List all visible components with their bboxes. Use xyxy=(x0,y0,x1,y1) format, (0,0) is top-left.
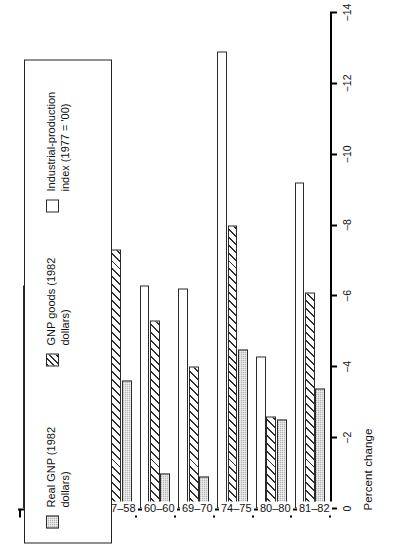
value-tick-label: −6 xyxy=(341,275,353,315)
value-tick-label: −14 xyxy=(341,0,353,32)
bar-ip xyxy=(217,51,227,508)
value-axis-title: Percent change xyxy=(362,428,374,510)
bar-group xyxy=(214,12,253,508)
category-label: 60–60 xyxy=(142,501,177,515)
bar-gnp xyxy=(238,349,248,508)
bar-goods xyxy=(305,292,315,508)
bar-group xyxy=(175,12,214,508)
bar-group xyxy=(253,12,292,508)
bar-goods xyxy=(228,225,238,508)
bar-ip xyxy=(295,182,305,508)
value-tick xyxy=(330,224,337,226)
legend-swatch-goods xyxy=(46,353,59,366)
value-tick xyxy=(330,82,337,84)
bar-group xyxy=(291,12,330,508)
value-tick-label: −10 xyxy=(341,134,353,174)
category-label: 80–80 xyxy=(258,501,293,515)
category-label: 69–70 xyxy=(180,501,215,515)
value-axis-line xyxy=(330,12,332,510)
value-tick-label: −8 xyxy=(341,205,353,245)
legend-swatch-gnp xyxy=(46,515,59,528)
legend-label-ip: Industrial-production index (1977 = '00) xyxy=(45,91,73,191)
bar-goods xyxy=(111,249,121,508)
bar-group xyxy=(136,12,175,508)
chart-figure: 0−2−4−6−8−10−12−14 49–4953–5457–5860–606… xyxy=(0,0,394,559)
value-tick-label: −12 xyxy=(341,63,353,103)
category-tick xyxy=(19,509,21,517)
chart-legend: Real GNP (1982 dollars)GNP goods (1982 d… xyxy=(24,59,112,543)
bar-goods xyxy=(189,366,199,508)
value-tick-label: −2 xyxy=(341,417,353,457)
value-tick xyxy=(330,153,337,155)
legend-entry-goods[interactable]: GNP goods (1982 dollars) xyxy=(45,257,73,366)
bar-gnp xyxy=(315,388,325,508)
legend-label-goods: GNP goods (1982 dollars) xyxy=(45,257,73,345)
value-tick-label: −4 xyxy=(341,346,353,386)
plot-area: 0−2−4−6−8−10−12−14 49–4953–5457–5860–606… xyxy=(0,0,394,559)
bar-goods xyxy=(150,320,160,508)
value-tick-label: 0 xyxy=(341,488,353,528)
bar-gnp xyxy=(122,380,132,508)
value-tick xyxy=(330,436,337,438)
bar-gnp xyxy=(277,419,287,508)
legend-swatch-ip xyxy=(46,199,59,212)
bar-ip xyxy=(178,288,188,508)
legend-label-gnp: Real GNP (1982 dollars) xyxy=(45,426,73,507)
bar-goods xyxy=(266,416,276,508)
category-label: 81–82 xyxy=(297,501,332,515)
category-label: 74–75 xyxy=(219,501,254,515)
value-tick xyxy=(330,11,337,13)
value-tick xyxy=(330,365,337,367)
value-tick xyxy=(330,294,337,296)
bar-ip xyxy=(140,285,150,508)
legend-entry-ip[interactable]: Industrial-production index (1977 = '00) xyxy=(45,91,73,212)
bar-ip xyxy=(256,356,266,508)
legend-entry-gnp[interactable]: Real GNP (1982 dollars) xyxy=(45,426,73,528)
